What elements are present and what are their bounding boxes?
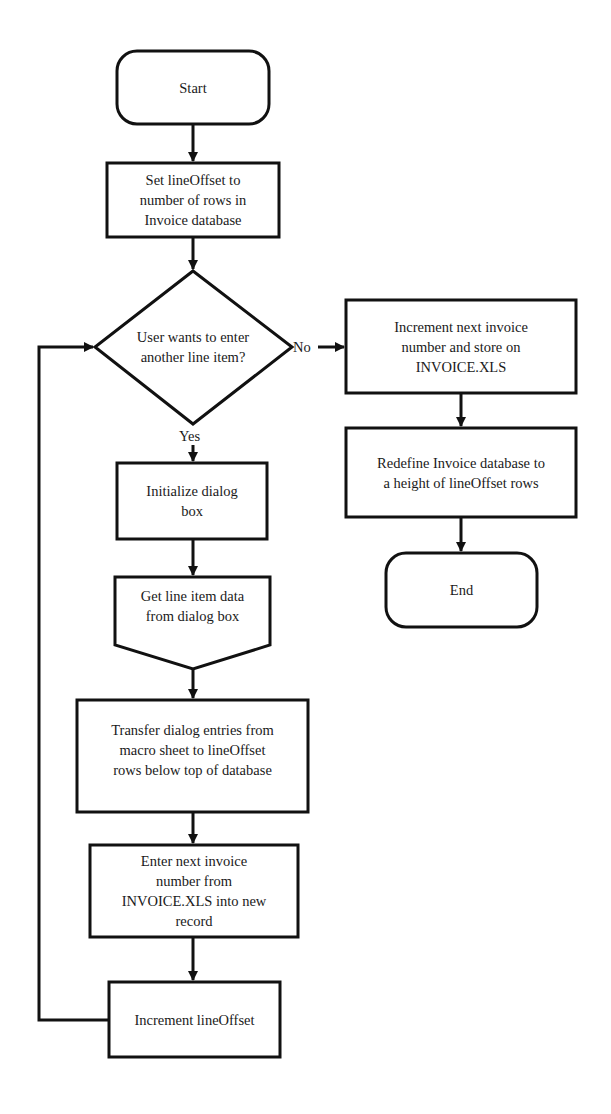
transfer-box (77, 700, 308, 812)
decision-diamond (95, 271, 292, 424)
flowchart-canvas: Start Set lineOffset to number of rows i… (0, 0, 611, 1114)
end-terminator (386, 553, 537, 627)
increment-offset-box (109, 982, 280, 1057)
yes-label: Yes (179, 428, 200, 444)
redefine-box (346, 428, 576, 517)
flowchart-svg (0, 0, 611, 1114)
set-offset-box (107, 163, 279, 237)
no-label: No (293, 339, 311, 355)
increment-invoice-box (346, 300, 576, 393)
init-dialog-box (117, 463, 267, 539)
get-data-connector (115, 577, 270, 669)
start-terminator (117, 51, 269, 124)
enter-number-box (90, 845, 298, 937)
